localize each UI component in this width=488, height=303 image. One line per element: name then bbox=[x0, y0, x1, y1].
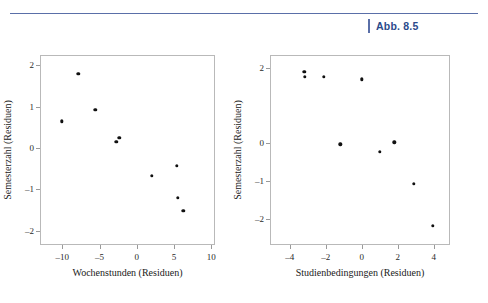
data-point bbox=[303, 70, 306, 73]
header-divider bbox=[10, 13, 478, 14]
data-point bbox=[182, 209, 185, 212]
x-axis-tick-label: –4 bbox=[285, 252, 294, 262]
x-axis-tick-label: 4 bbox=[432, 252, 437, 262]
y-axis-tick bbox=[36, 189, 40, 190]
x-axis-tick bbox=[326, 245, 327, 249]
x-axis-tick-label: 10 bbox=[207, 252, 216, 262]
x-axis-tick-label: 2 bbox=[396, 252, 401, 262]
data-point bbox=[150, 174, 153, 177]
data-point bbox=[322, 75, 325, 78]
scatter-plot-left: –10–50510210–1–2Wochenstunden (Residuen)… bbox=[0, 40, 240, 303]
y-axis-tick bbox=[266, 181, 270, 182]
y-axis-tick bbox=[266, 143, 270, 144]
x-axis-tick-label: –5 bbox=[95, 252, 104, 262]
x-axis-tick bbox=[137, 245, 138, 249]
x-axis-tick bbox=[398, 245, 399, 249]
y-axis-tick-label: –2 bbox=[16, 226, 34, 236]
y-axis-tick bbox=[36, 65, 40, 66]
data-point bbox=[412, 182, 415, 185]
y-axis-tick-label: 0 bbox=[16, 143, 34, 153]
data-point bbox=[175, 164, 178, 167]
data-point bbox=[176, 196, 179, 199]
x-axis-tick bbox=[434, 245, 435, 249]
y-axis-tick bbox=[36, 231, 40, 232]
data-point bbox=[303, 75, 306, 78]
plot-area-left bbox=[40, 55, 215, 245]
y-axis-tick bbox=[266, 219, 270, 220]
x-axis-tick bbox=[100, 245, 101, 249]
x-axis-tick-label: –2 bbox=[321, 252, 330, 262]
y-axis-title: Semesterzahl (Residuen) bbox=[232, 100, 243, 200]
x-axis-tick bbox=[174, 245, 175, 249]
x-axis-tick-label: –10 bbox=[56, 252, 70, 262]
y-axis-tick-label: 1 bbox=[16, 102, 34, 112]
data-point bbox=[115, 140, 118, 143]
x-axis-title: Wochenstunden (Residuen) bbox=[73, 267, 183, 278]
data-point bbox=[77, 72, 80, 75]
figure-container: –10–50510210–1–2Wochenstunden (Residuen)… bbox=[0, 40, 488, 303]
data-point bbox=[94, 108, 97, 111]
y-axis-tick-label: –1 bbox=[16, 184, 34, 194]
y-axis-tick bbox=[36, 148, 40, 149]
y-axis-tick-label: –1 bbox=[246, 176, 264, 186]
x-axis-tick-label: 5 bbox=[172, 252, 177, 262]
x-axis-tick bbox=[362, 245, 363, 249]
x-axis-tick-label: 0 bbox=[135, 252, 140, 262]
data-point bbox=[378, 150, 381, 153]
figure-label-accent-bar bbox=[368, 19, 370, 33]
y-axis-tick-label: 2 bbox=[246, 63, 264, 73]
y-axis-tick-label: 2 bbox=[16, 60, 34, 70]
data-point bbox=[60, 120, 63, 123]
y-axis-tick-label: –2 bbox=[246, 214, 264, 224]
y-axis-tick bbox=[36, 107, 40, 108]
data-point bbox=[431, 224, 434, 227]
x-axis-tick bbox=[211, 245, 212, 249]
x-axis-tick-label: 0 bbox=[360, 252, 365, 262]
y-axis-tick bbox=[266, 68, 270, 69]
x-axis-title: Studienbedingungen (Residuen) bbox=[296, 267, 425, 278]
x-axis-tick bbox=[290, 245, 291, 249]
scatter-plot-right: –4–202420–1–2Studienbedingungen (Residue… bbox=[236, 40, 488, 303]
y-axis-title: Semesterzahl (Residuen) bbox=[2, 100, 13, 200]
data-point bbox=[360, 78, 363, 81]
x-axis-tick bbox=[62, 245, 63, 249]
plot-area-right bbox=[270, 55, 450, 245]
figure-label-text: Abb. 8.5 bbox=[376, 20, 418, 32]
data-point bbox=[117, 136, 120, 139]
data-point bbox=[339, 143, 342, 146]
y-axis-tick-label: 0 bbox=[246, 138, 264, 148]
data-point bbox=[393, 140, 396, 143]
figure-label: Abb. 8.5 bbox=[368, 19, 418, 33]
